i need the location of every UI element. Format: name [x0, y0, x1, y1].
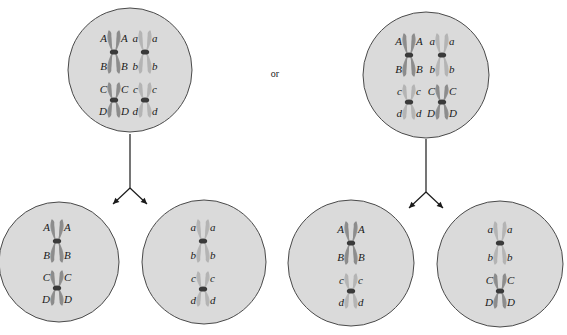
allele-label-b-right: b: [152, 60, 158, 72]
allele-label-d-left: d: [397, 107, 403, 119]
allele-label-d-right: d: [152, 105, 158, 117]
allele-label-C-left: C: [43, 271, 51, 283]
allele-label-B-right: B: [64, 249, 71, 261]
allele-label-b-right: b: [449, 63, 455, 75]
allele-label-a-left: a: [191, 221, 197, 233]
allele-label-c-right: c: [416, 85, 421, 97]
daughter-cell-2: aabbccdd: [142, 200, 266, 324]
allele-label-A-right: A: [63, 221, 71, 233]
centromere: [496, 240, 504, 245]
allele-label-d-left: d: [133, 105, 139, 117]
centromere: [53, 285, 61, 290]
centromere: [110, 49, 118, 54]
allele-label-a-right: a: [210, 221, 216, 233]
allele-label-A-right: A: [357, 223, 365, 235]
allele-label-B-left: B: [337, 251, 344, 263]
allele-label-d-right: d: [210, 294, 216, 306]
allele-label-A-left: A: [99, 32, 107, 44]
centromere: [438, 99, 446, 104]
allele-label-b-right: b: [210, 249, 216, 261]
allele-label-d-right: d: [358, 296, 364, 308]
allele-label-C-right: C: [449, 85, 457, 97]
centromere: [438, 52, 446, 57]
cell-membrane: [437, 201, 563, 327]
allele-label-A-right: A: [120, 32, 128, 44]
allele-label-d-left: d: [339, 296, 345, 308]
centromere: [53, 238, 61, 243]
cell-membrane: [68, 8, 192, 132]
allele-label-b-left: b: [488, 251, 494, 263]
allele-label-B-left: B: [43, 249, 50, 261]
allele-label-D-left: D: [98, 105, 107, 117]
allele-label-B-right: B: [416, 63, 423, 75]
allele-label-b-right: b: [507, 251, 513, 263]
parent-cell: AABBaabbccddCCDD: [363, 12, 489, 138]
allele-label-A-left: A: [394, 35, 402, 47]
or-separator-label: or: [271, 68, 280, 79]
allele-label-D-left: D: [41, 293, 50, 305]
meiosis-diagram: AABBaabbCCDDccddAABBCCDDaabbccdd or AABB…: [0, 0, 567, 335]
parent-cell: AABBaabbCCDDccdd: [68, 8, 192, 132]
scenario-2-group: AABBaabbccddCCDDAABBccddaabbCCDD: [288, 12, 563, 327]
allele-label-c-left: c: [339, 274, 344, 286]
cell-membrane: [288, 200, 414, 326]
centromere: [141, 97, 149, 102]
daughter-cell-1: AABBCCDD: [0, 202, 119, 322]
allele-label-D-right: D: [506, 296, 515, 308]
centromere: [110, 97, 118, 102]
allele-label-a-left: a: [430, 35, 436, 47]
allele-label-D-right: D: [448, 107, 457, 119]
allele-label-A-left: A: [336, 223, 344, 235]
allele-label-A-right: A: [415, 35, 423, 47]
centromere: [347, 288, 355, 293]
allele-label-C-left: C: [100, 83, 108, 95]
centromere: [199, 238, 207, 243]
scenario-1-group: AABBaabbCCDDccddAABBCCDDaabbccdd: [0, 8, 266, 324]
allele-label-a-right: a: [507, 223, 513, 235]
allele-label-c-right: c: [152, 83, 157, 95]
centromere: [496, 288, 504, 293]
allele-label-D-left: D: [484, 296, 493, 308]
allele-label-D-right: D: [63, 293, 72, 305]
allele-label-C-right: C: [64, 271, 72, 283]
allele-label-D-right: D: [120, 105, 129, 117]
allele-label-A-left: A: [42, 221, 50, 233]
allele-label-a-right: a: [449, 35, 455, 47]
daughter-cell-1: AABBccdd: [288, 200, 414, 326]
centromere: [141, 49, 149, 54]
allele-label-C-left: C: [486, 274, 494, 286]
allele-label-C-right: C: [507, 274, 515, 286]
allele-label-C-right: C: [121, 83, 129, 95]
allele-label-c-right: c: [210, 272, 215, 284]
allele-label-a-left: a: [488, 223, 494, 235]
centromere: [405, 52, 413, 57]
allele-label-B-right: B: [358, 251, 365, 263]
division-arrow-icon: [113, 134, 147, 204]
allele-label-b-left: b: [430, 63, 436, 75]
allele-label-b-left: b: [191, 249, 197, 261]
allele-label-B-left: B: [100, 60, 107, 72]
allele-label-c-right: c: [358, 274, 363, 286]
centromere: [199, 286, 207, 291]
allele-label-D-left: D: [426, 107, 435, 119]
allele-label-c-left: c: [397, 85, 402, 97]
division-arrow-icon: [409, 139, 443, 208]
allele-label-d-left: d: [191, 294, 197, 306]
allele-label-C-left: C: [428, 85, 436, 97]
cell-membrane: [0, 202, 119, 322]
allele-label-c-left: c: [191, 272, 196, 284]
daughter-cell-2: aabbCCDD: [437, 201, 563, 327]
allele-label-B-left: B: [395, 63, 402, 75]
allele-label-c-left: c: [133, 83, 138, 95]
allele-label-d-right: d: [416, 107, 422, 119]
cell-membrane: [363, 12, 489, 138]
centromere: [347, 240, 355, 245]
allele-label-a-left: a: [133, 32, 139, 44]
centromere: [405, 99, 413, 104]
allele-label-a-right: a: [152, 32, 158, 44]
allele-label-b-left: b: [133, 60, 139, 72]
allele-label-B-right: B: [121, 60, 128, 72]
cell-membrane: [142, 200, 266, 324]
